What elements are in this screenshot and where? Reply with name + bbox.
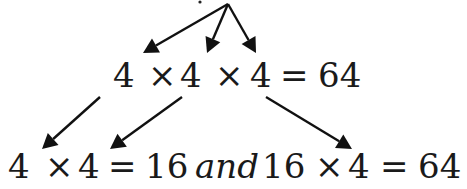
row1-times-sign: × xyxy=(148,55,177,95)
row2-number: 16 xyxy=(262,146,305,186)
row2-number: 4 xyxy=(8,146,30,186)
row1-number: 4 xyxy=(250,55,272,95)
bottom-arrows xyxy=(42,97,352,149)
row1-times-sign: × xyxy=(215,55,244,95)
row2-conjunction-and: and xyxy=(195,146,259,186)
row1-number: 64 xyxy=(318,55,361,95)
row2-number: 64 xyxy=(418,146,461,186)
top-arrow-3 xyxy=(228,4,249,40)
row1-number: 4 xyxy=(113,55,135,95)
row2-times-sign: × xyxy=(45,146,74,186)
cropped-glyph-dot xyxy=(198,0,201,3)
row2-equals-sign: = xyxy=(380,146,409,186)
row2-number: 4 xyxy=(78,146,100,186)
exponent-expansion-diagram: 4×4×4=64 4×4=16and16×4=64 xyxy=(0,0,467,189)
equation-row-2: 4×4=16and16×4=64 xyxy=(8,146,461,186)
equation-row-1: 4×4×4=64 xyxy=(113,55,361,95)
row1-equals-sign: = xyxy=(280,55,309,95)
row1-number: 4 xyxy=(180,55,202,95)
bottom-arrow-3 xyxy=(266,97,339,141)
row2-number: 4 xyxy=(348,146,370,186)
bottom-arrow-2 xyxy=(122,97,182,140)
row2-number: 16 xyxy=(145,146,188,186)
top-arrow-1 xyxy=(156,4,228,46)
top-arrows xyxy=(143,4,256,53)
bottom-arrow-1 xyxy=(53,97,100,139)
row2-times-sign: × xyxy=(315,146,344,186)
row2-equals-sign: = xyxy=(108,146,137,186)
